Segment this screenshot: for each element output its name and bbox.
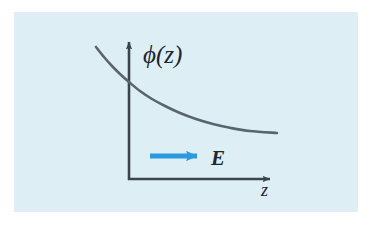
figure-panel-background xyxy=(14,12,358,212)
potential-versus-z-diagram: ϕ(z) z E xyxy=(0,0,380,228)
x-axis-label: z xyxy=(260,180,268,200)
y-axis-label: ϕ(z) xyxy=(143,41,182,69)
electric-field-label: E xyxy=(210,146,225,170)
figure-root: ϕ(z) z E xyxy=(0,0,380,228)
